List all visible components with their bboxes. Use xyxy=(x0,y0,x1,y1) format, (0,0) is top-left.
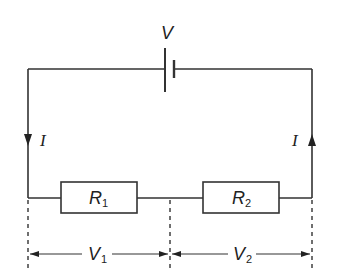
circuit-diagram: V I I R 1 R 2 V 1 V 2 xyxy=(0,0,338,278)
resistor-r1-subscript: 1 xyxy=(102,197,108,209)
arrow-up-icon xyxy=(308,134,316,146)
voltage-v1-label: V xyxy=(88,244,102,264)
resistor-r2-label: R xyxy=(232,188,245,208)
voltage-v1-subscript: 1 xyxy=(101,253,107,265)
resistor-r1-label: R xyxy=(89,188,102,208)
voltage-v2-label: V xyxy=(233,244,247,264)
circuit-svg: V I I R 1 R 2 V 1 V 2 xyxy=(0,0,338,278)
current-label-right: I xyxy=(291,131,299,150)
battery-label: V xyxy=(161,23,175,43)
dashed-markers xyxy=(28,200,312,268)
battery-icon xyxy=(165,48,174,92)
current-label-left: I xyxy=(39,131,47,150)
arrow-down-icon xyxy=(24,134,32,146)
voltage-v2-subscript: 2 xyxy=(246,253,252,265)
resistor-r2-subscript: 2 xyxy=(245,197,251,209)
